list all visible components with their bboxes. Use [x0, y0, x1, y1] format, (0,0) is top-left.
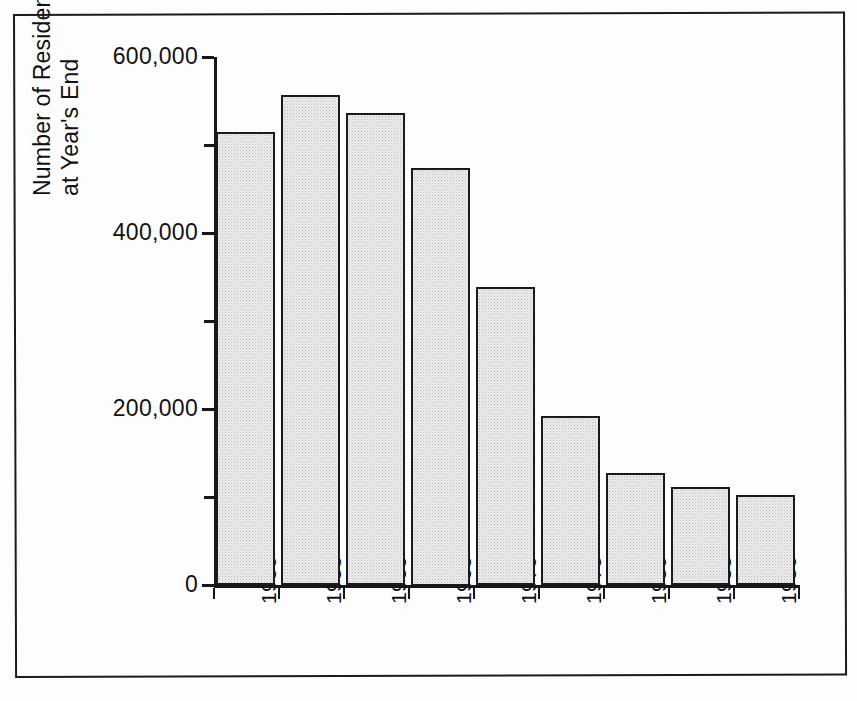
bar-1955: [281, 95, 340, 585]
bar-1975: [541, 416, 600, 586]
bar-1950: [216, 132, 275, 585]
y-tick-label-200000: 200,000: [8, 395, 198, 422]
bar-1965: [411, 168, 470, 586]
y-axis-title-line2: at Year's End: [56, 0, 84, 196]
y-tick-500000: [204, 144, 214, 147]
bar-chart-plot: Number of Resident-Patientsat Year's End…: [0, 0, 857, 701]
y-tick-200000: [202, 408, 214, 411]
y-tick-400000: [202, 232, 214, 235]
y-tick-label-0: 0: [8, 571, 198, 598]
y-tick-label-600000: 600,000: [8, 43, 198, 70]
x-tick-0: [213, 588, 216, 599]
y-tick-300000: [204, 320, 214, 323]
y-axis-title: Number of Resident-Patientsat Year's End: [28, 0, 84, 196]
y-tick-0: [202, 584, 214, 587]
y-tick-100000: [204, 496, 214, 499]
figure-canvas: Number of Resident-Patientsat Year's End…: [0, 0, 857, 701]
y-tick-label-400000: 400,000: [8, 219, 198, 246]
y-axis-title-line1: Number of Resident-Patients: [29, 0, 55, 196]
bar-1986: [736, 495, 795, 586]
bar-1960: [346, 113, 405, 586]
y-tick-600000: [202, 56, 214, 59]
bar-1970: [476, 287, 535, 585]
bar-1985: [671, 487, 730, 586]
bar-1980: [606, 473, 665, 586]
